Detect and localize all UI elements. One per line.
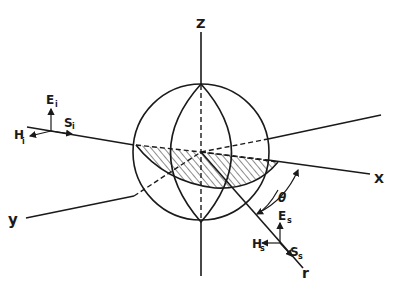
Ei-subscript: i	[55, 100, 58, 109]
x-axis	[268, 160, 370, 174]
Hi-vector	[30, 131, 51, 136]
y-axis-label: y	[8, 211, 18, 229]
Es-subscript: s	[287, 216, 292, 225]
r-axis-label: r	[302, 265, 309, 281]
Hi-subscript: i	[22, 137, 25, 146]
Es-label: E	[278, 209, 286, 223]
scattering-diagram: Z X y r θ E i H i S i E s H s S s	[0, 0, 408, 290]
Si-subscript: i	[72, 122, 75, 131]
Ss-subscript: s	[298, 252, 303, 261]
theta-label: θ	[278, 191, 286, 205]
x-axis-label: X	[374, 171, 384, 186]
y-axis	[26, 196, 134, 218]
Hs-subscript: s	[260, 244, 265, 253]
z-axis-label: Z	[196, 16, 205, 31]
incident-beam-line	[27, 127, 134, 145]
incident-beam-exit	[268, 115, 381, 139]
incident-beam-hidden	[201, 139, 268, 152]
Ei-label: E	[46, 93, 54, 107]
